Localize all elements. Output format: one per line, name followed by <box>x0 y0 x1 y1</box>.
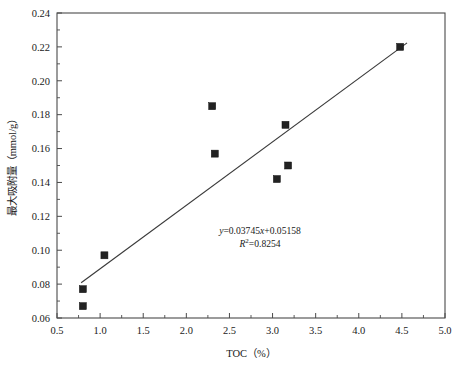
data-point-marker <box>101 252 108 259</box>
scatter-plot-svg: 0.51.01.52.02.53.03.54.04.55.0 0.060.080… <box>0 0 459 380</box>
x-tick-label: 3.5 <box>309 325 322 336</box>
equation-body: =0.03745 <box>223 225 260 236</box>
data-point-marker <box>285 162 292 169</box>
data-point-series <box>79 43 403 309</box>
x-tick-label: 3.0 <box>266 325 279 336</box>
x-tick-label: 2.0 <box>180 325 193 336</box>
data-point-marker <box>282 121 289 128</box>
data-point-marker <box>273 176 280 183</box>
y-tick-label: 0.16 <box>32 143 50 154</box>
y-tick-label: 0.22 <box>32 42 50 53</box>
y-tick-label: 0.14 <box>32 177 51 188</box>
x-tick-label: 4.5 <box>395 325 408 336</box>
r-squared-text: R2=0.8254 <box>238 237 280 249</box>
x-tick-label: 1.5 <box>137 325 150 336</box>
data-point-marker <box>211 150 218 157</box>
data-point-marker <box>397 43 404 50</box>
regression-equation-text: y=0.03745x+0.05158 <box>218 225 301 236</box>
y-tick-label: 0.08 <box>32 279 50 290</box>
x-axis-tick-labels: 0.51.01.52.02.53.03.54.04.55.0 <box>50 325 451 336</box>
equation-tail: +0.05158 <box>264 225 301 236</box>
x-tick-label: 2.5 <box>223 325 236 336</box>
y-tick-label: 0.12 <box>32 211 50 222</box>
y-tick-label: 0.06 <box>32 313 50 324</box>
y-tick-label: 0.20 <box>32 76 50 87</box>
data-point-marker <box>79 286 86 293</box>
y-tick-label: 0.18 <box>32 109 50 120</box>
data-point-marker <box>79 303 86 310</box>
x-axis-title: TOC（%） <box>226 348 276 359</box>
chart-container: 0.51.01.52.02.53.03.54.04.55.0 0.060.080… <box>0 0 459 380</box>
x-tick-label: 5.0 <box>438 325 451 336</box>
x-tick-label: 0.5 <box>50 325 63 336</box>
x-tick-label: 4.0 <box>352 325 365 336</box>
y-tick-label: 0.24 <box>32 8 51 19</box>
y-tick-label: 0.10 <box>32 245 50 256</box>
plot-frame <box>57 13 445 318</box>
r-squared-value: =0.8254 <box>249 238 281 249</box>
data-point-marker <box>209 103 216 110</box>
y-axis-title: 最大吸附量（mmol/g） <box>6 114 18 217</box>
y-axis-title-group: 最大吸附量（mmol/g） <box>6 114 18 217</box>
x-tick-label: 1.0 <box>94 325 107 336</box>
y-axis-tick-labels: 0.060.080.100.120.140.160.180.200.220.24 <box>32 8 51 324</box>
